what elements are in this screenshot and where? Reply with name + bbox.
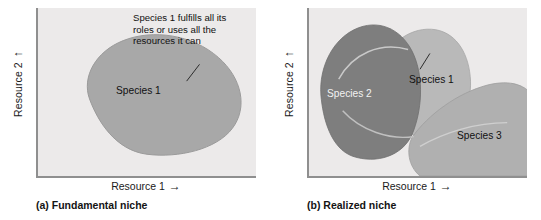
y-axis-label-a: Resource 2↑ <box>12 29 24 139</box>
panel-realized-niche: Resource 2↑ Species 2 Species 1 <box>271 0 541 220</box>
callout-a: Species 1 fulfills all its roles or uses… <box>133 12 258 47</box>
y-axis-label-b: Resource 2↑ <box>283 29 295 139</box>
arrow-up-icon-a: ↑ <box>12 51 24 57</box>
region-label-species-1-b: Species 1 <box>409 74 454 85</box>
region-label-species-1-a: Species 1 <box>116 85 161 96</box>
arrow-up-icon-b: ↑ <box>283 51 295 57</box>
region-label-species-2-b: Species 2 <box>327 88 372 99</box>
plot-area-b: Species 2 Species 1 Species 3 <box>307 8 527 178</box>
y-axis-label-b-text: Resource 2 <box>283 62 295 117</box>
panel-fundamental-niche: Resource 2↑ Species 1 Species 1 fulfills… <box>0 0 270 220</box>
arrow-right-icon-b: → <box>440 180 452 192</box>
x-axis-label-a: Resource 1→ <box>36 180 256 192</box>
x-axis-label-b-text: Resource 1 <box>382 180 436 192</box>
caption-a: (a) Fundamental niche <box>36 199 147 211</box>
x-axis-label-b: Resource 1→ <box>307 180 527 192</box>
y-axis-label-a-text: Resource 2 <box>12 62 24 117</box>
region-label-species-3-b: Species 3 <box>457 130 502 141</box>
caption-b: (b) Realized niche <box>307 199 396 211</box>
x-axis-label-a-text: Resource 1 <box>111 180 165 192</box>
region-species-1-a <box>87 35 241 156</box>
niche-comparison-figure: Resource 2↑ Species 1 Species 1 fulfills… <box>0 0 541 220</box>
arrow-right-icon-a: → <box>169 180 181 192</box>
